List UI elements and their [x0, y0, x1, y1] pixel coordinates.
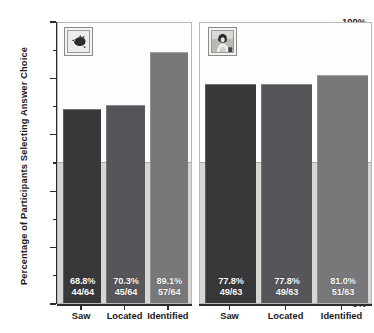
bar-fraction-label: 45/64	[107, 287, 144, 297]
dark-animal-stimulus-thumbnail	[64, 27, 93, 56]
x-axis-tick	[285, 305, 286, 310]
bar: 70.3%45/64	[106, 105, 144, 303]
bar-percent-label: 81.0%	[318, 276, 368, 286]
person-photo-icon	[212, 31, 233, 52]
x-axis-category-label: Located	[107, 311, 143, 322]
y-axis-title: Percentage of Participants Selecting Ans…	[17, 41, 31, 291]
x-axis-tick	[167, 305, 168, 310]
bar-percent-label: 89.1%	[151, 276, 188, 286]
dark-animal-icon	[68, 31, 89, 52]
x-axis-category-label: Located	[268, 311, 304, 322]
person-photo-stimulus-thumbnail	[208, 27, 237, 56]
y-axis-minor-tick	[53, 275, 57, 276]
x-axis-tick	[124, 305, 125, 310]
bar-value-label: 68.8%44/64	[64, 276, 101, 297]
chart-panel-left: 68.8%44/6470.3%45/6489.1%57/64	[57, 22, 192, 304]
bar-value-label: 77.8%49/63	[206, 276, 256, 297]
panel-right-bars: 77.8%49/6377.8%49/6381.0%51/63	[200, 23, 371, 303]
bar-value-label: 89.1%57/64	[151, 276, 188, 297]
bar: 89.1%57/64	[150, 52, 188, 303]
x-axis-tick	[80, 305, 81, 310]
y-axis-major-tick	[50, 134, 56, 135]
y-axis-major-tick	[50, 191, 56, 192]
bar: 77.8%49/63	[205, 84, 256, 303]
y-axis-major-tick	[50, 78, 56, 79]
y-axis-major-tick	[50, 247, 56, 248]
bar-percent-label: 68.8%	[64, 276, 101, 286]
y-axis-minor-tick	[53, 219, 57, 220]
bar-percent-label: 77.8%	[206, 276, 256, 286]
bar-fraction-label: 51/63	[318, 287, 368, 297]
panel-left-bars: 68.8%44/6470.3%45/6489.1%57/64	[58, 23, 191, 303]
x-axis-category-label: Saw	[220, 311, 239, 322]
bar-percent-label: 77.8%	[262, 276, 312, 286]
bar-value-label: 81.0%51/63	[318, 276, 368, 297]
bar: 81.0%51/63	[317, 75, 368, 303]
bar: 68.8%44/64	[63, 109, 101, 303]
bar-fraction-label: 49/63	[206, 287, 256, 297]
thumbnail-frame	[211, 30, 234, 53]
bar-fraction-label: 57/64	[151, 287, 188, 297]
bar: 77.8%49/63	[261, 84, 312, 303]
thumbnail-frame	[67, 30, 90, 53]
bar-value-label: 77.8%49/63	[262, 276, 312, 297]
y-axis-major-tick	[50, 303, 56, 304]
x-axis-category-label: Identified	[147, 311, 188, 322]
x-axis-category-label: Identified	[321, 311, 362, 322]
bar-fraction-label: 44/64	[64, 287, 101, 297]
y-axis-minor-tick	[53, 50, 57, 51]
chart-panel-right: 77.8%49/6377.8%49/6381.0%51/63	[199, 22, 372, 304]
x-axis-tick	[341, 305, 342, 310]
bar-percent-label: 70.3%	[107, 276, 144, 286]
bar-fraction-label: 49/63	[262, 287, 312, 297]
x-axis-category-label: Saw	[72, 311, 91, 322]
x-axis-tick	[229, 305, 230, 310]
y-axis-minor-tick	[53, 162, 57, 163]
y-axis-minor-tick	[53, 106, 57, 107]
y-axis-major-tick	[50, 21, 56, 22]
bar-value-label: 70.3%45/64	[107, 276, 144, 297]
bar-chart: Percentage of Participants Selecting Ans…	[0, 0, 374, 333]
